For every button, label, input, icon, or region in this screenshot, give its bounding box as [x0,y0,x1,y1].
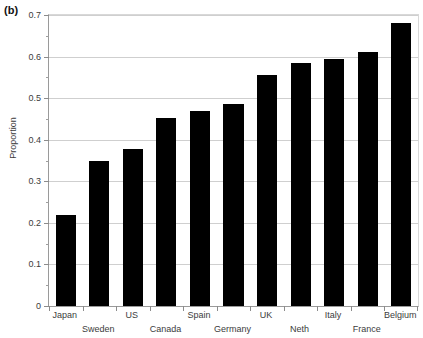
x-tick-label: Belgium [384,310,417,320]
bar [223,104,243,306]
y-tick-label: 0.5 [28,93,41,103]
y-tick-label: 0.1 [28,259,41,269]
y-tick-label: 0.7 [28,10,41,20]
y-tick-label: 0.6 [28,52,41,62]
bar-series [49,15,418,306]
y-tick-label: 0 [36,301,41,311]
bar [391,23,411,306]
x-tick-label: France [353,324,381,334]
bar [123,149,143,306]
bar [324,59,344,306]
figure-panel-b: (b) Proportion 00.10.20.30.40.50.60.7 Ja… [0,0,423,338]
plot-area: 00.10.20.30.40.50.60.7 [48,14,419,307]
y-tick-label: 0.4 [28,135,41,145]
y-axis-title: Proportion [8,93,18,183]
bar [291,63,311,306]
x-tick-label: UK [260,310,273,320]
y-tick-label: 0.2 [28,218,41,228]
x-axis-labels: JapanSwedenUSCanadaSpainGermanyUKNethIta… [48,308,419,338]
bar [257,75,277,306]
bar [56,215,76,306]
x-tick-label: US [126,310,139,320]
x-tick-label: Canada [150,324,182,334]
x-tick-label: Germany [214,324,251,334]
bar [190,111,210,306]
x-tick-label: Sweden [82,324,115,334]
x-tick-label: Italy [325,310,342,320]
x-tick-label: Spain [187,310,210,320]
x-tick-label: Japan [53,310,78,320]
bar [156,118,176,306]
bar [89,161,109,307]
panel-label: (b) [4,4,18,16]
x-tick-label: Neth [290,324,309,334]
y-tick-label: 0.3 [28,176,41,186]
bar [358,52,378,306]
